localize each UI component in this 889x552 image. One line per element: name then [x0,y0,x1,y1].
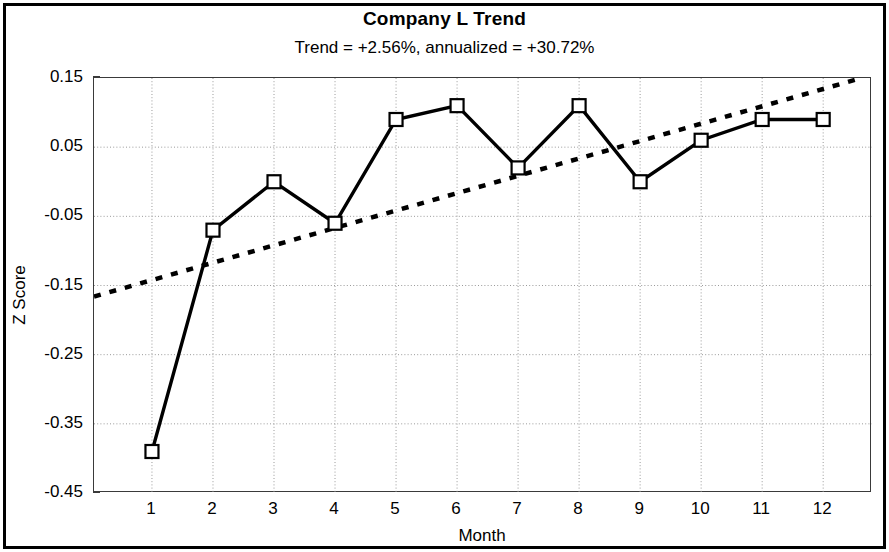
x-axis-label: Month [93,526,871,546]
y-tick-label: -0.15 [17,275,83,295]
x-tick-label: 5 [375,499,415,519]
x-tick-label: 2 [192,499,232,519]
y-tick-label: 0.05 [17,136,83,156]
x-tick-label: 1 [131,499,171,519]
plot-area [93,77,871,492]
x-tick-label: 9 [619,499,659,519]
x-tick-label: 6 [436,499,476,519]
chart-subtitle: Trend = +2.56%, annualized = +30.72% [0,38,889,58]
vertical-gridlines [152,78,823,493]
y-tick-label: -0.25 [17,344,83,364]
plot-svg [94,78,872,493]
x-tick-label: 11 [741,499,781,519]
y-tick-label: -0.05 [17,205,83,225]
x-tick-label: 10 [680,499,720,519]
y-tick-label: -0.35 [17,413,83,433]
y-axis-label: Z Score [10,235,30,355]
trend-line [94,79,857,296]
x-tick-label: 4 [314,499,354,519]
data-line [152,106,823,452]
x-tick-label: 8 [558,499,598,519]
chart-title: Company L Trend [0,8,889,30]
horizontal-gridlines [94,147,872,424]
data-markers [145,99,829,458]
x-tick-label: 12 [802,499,842,519]
x-tick-label: 3 [253,499,293,519]
y-tick-label: 0.15 [17,67,83,87]
chart-figure: Company L Trend Trend = +2.56%, annualiz… [0,0,889,552]
x-tick-label: 7 [497,499,537,519]
y-tick-label: -0.45 [17,482,83,502]
